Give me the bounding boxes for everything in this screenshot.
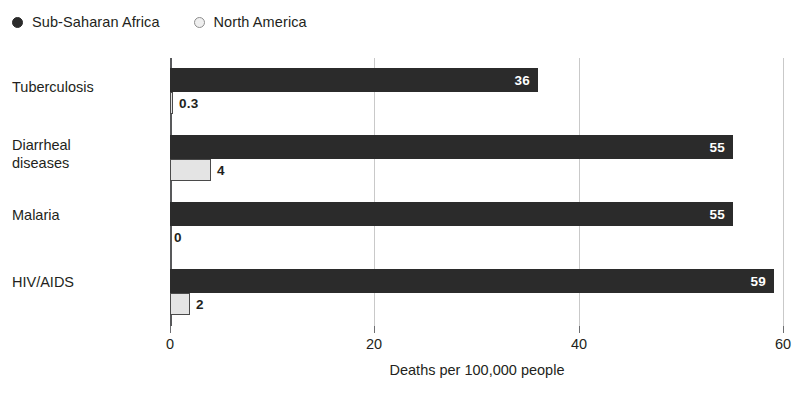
bar-malaria-sub-saharan-africa[interactable]: 55 <box>170 202 733 226</box>
bar-group-diarrheal-diseases: 55 4 <box>170 125 806 175</box>
bar-diarrheal-diseases-north-america[interactable]: 4 <box>170 159 211 181</box>
bar-group-tuberculosis: 36 0.3 <box>170 58 806 108</box>
bar-value-label: 0.3 <box>179 96 198 111</box>
bar-diarrheal-diseases-sub-saharan-africa[interactable]: 55 <box>170 135 733 159</box>
category-axis-labels: Tuberculosis Diarrheal diseases Malaria … <box>12 58 170 326</box>
bar-value-label: 2 <box>196 297 204 312</box>
legend-label-sub-saharan-africa: Sub-Saharan Africa <box>32 14 160 30</box>
category-label-diarrheal-diseases: Diarrheal diseases <box>12 136 170 172</box>
hollow-circle-icon <box>194 17 205 28</box>
plot-area: 36 0.3 55 4 55 0 59 <box>170 58 784 326</box>
bar-hiv-aids-north-america[interactable]: 2 <box>170 293 190 315</box>
category-label-malaria: Malaria <box>12 206 170 224</box>
legend-label-north-america: North America <box>214 14 307 30</box>
bar-hiv-aids-sub-saharan-africa[interactable]: 59 <box>170 269 774 293</box>
bar-group-hiv-aids: 59 2 <box>170 259 806 309</box>
filled-circle-icon <box>12 17 23 28</box>
x-tick-label-40: 40 <box>571 336 587 352</box>
bar-value-label: 0 <box>174 230 182 245</box>
category-label-line: HIV/AIDS <box>12 273 170 291</box>
x-tick-label-0: 0 <box>166 336 174 352</box>
grouped-bar-chart: Sub-Saharan Africa North America Tubercu… <box>0 0 806 394</box>
x-tick-0 <box>170 326 171 333</box>
x-axis: 0 20 40 60 <box>170 326 784 360</box>
chart-legend: Sub-Saharan Africa North America <box>12 11 307 33</box>
category-label-line: Tuberculosis <box>12 78 170 96</box>
bar-value-label: 59 <box>751 274 766 289</box>
x-tick-label-60: 60 <box>775 336 791 352</box>
x-tick-40 <box>579 326 580 333</box>
category-label-line: diseases <box>12 154 170 172</box>
bar-value-label: 36 <box>515 73 530 88</box>
x-tick-60 <box>783 326 784 333</box>
legend-item-sub-saharan-africa: Sub-Saharan Africa <box>12 14 160 30</box>
category-label-line: Diarrheal <box>12 136 170 154</box>
bar-value-label: 55 <box>710 207 725 222</box>
legend-item-north-america: North America <box>194 14 307 30</box>
category-label-line: Malaria <box>12 206 170 224</box>
x-tick-20 <box>374 326 375 333</box>
bar-group-malaria: 55 0 <box>170 192 806 242</box>
bar-tuberculosis-sub-saharan-africa[interactable]: 36 <box>170 68 538 92</box>
x-tick-label-20: 20 <box>366 336 382 352</box>
bar-value-label: 4 <box>217 163 225 178</box>
x-axis-title: Deaths per 100,000 people <box>170 362 784 378</box>
category-label-hiv-aids: HIV/AIDS <box>12 273 170 291</box>
category-label-tuberculosis: Tuberculosis <box>12 78 170 96</box>
bar-value-label: 55 <box>710 140 725 155</box>
bar-tuberculosis-north-america[interactable]: 0.3 <box>170 92 173 114</box>
